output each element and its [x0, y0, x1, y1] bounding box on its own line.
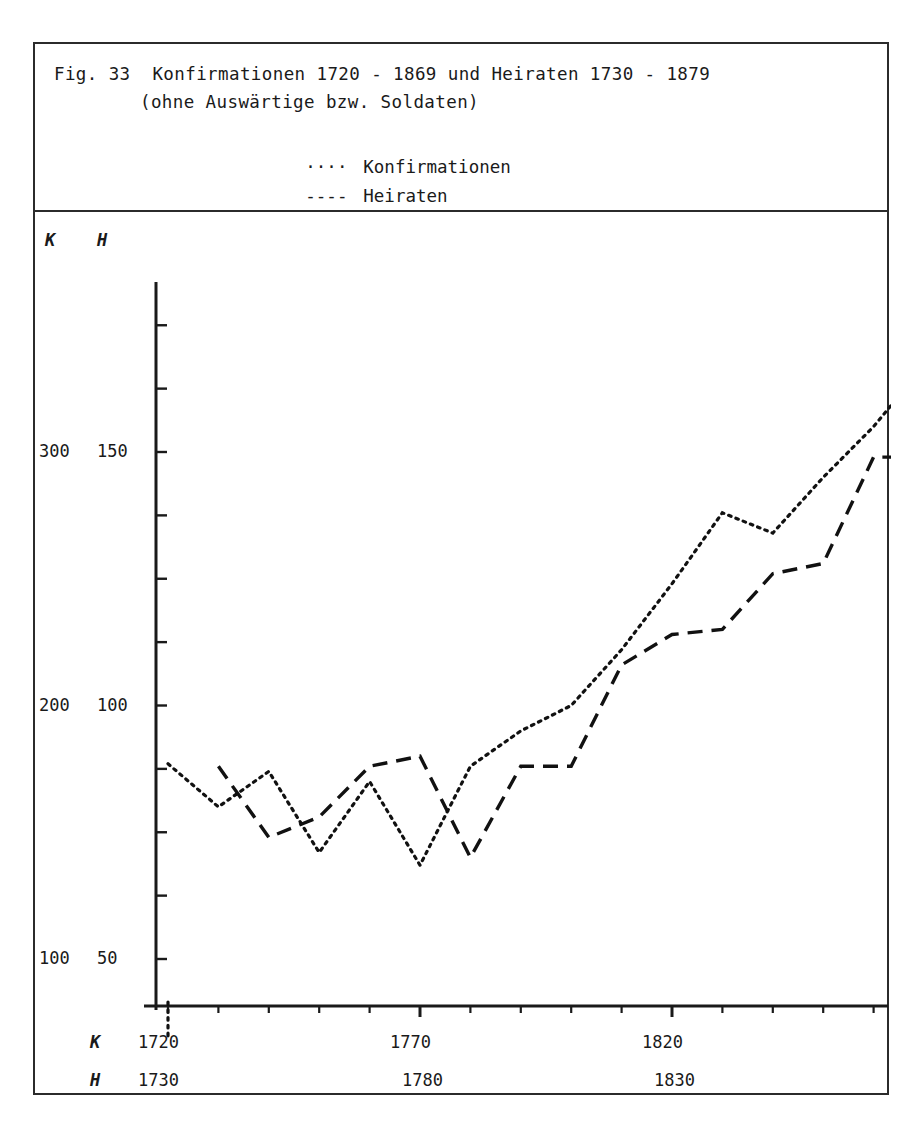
dashed-line-icon: ----: [305, 186, 357, 206]
x-tick-label-h: 1730: [138, 1070, 179, 1090]
x-axis-ticks: [168, 1006, 874, 1017]
y-tick-label-k: 200: [39, 695, 70, 715]
x-tick-label-k: 1770: [390, 1032, 431, 1052]
series-line-konfirmationen: [168, 366, 891, 865]
caption-block: Fig. 33 Konfirmationen 1720 - 1869 und H…: [35, 44, 887, 212]
y-tick-label-h: 150: [97, 441, 128, 461]
y-tick-label-k: 100: [39, 948, 70, 968]
x-tick-label-h: 1780: [402, 1070, 443, 1090]
y-axis-ticks: [156, 325, 167, 959]
series-layer: [168, 366, 891, 1040]
figure-caption-line-1: Fig. 33 Konfirmationen 1720 - 1869 und H…: [35, 64, 906, 84]
figure-frame: Fig. 33 Konfirmationen 1720 - 1869 und H…: [33, 42, 889, 1095]
y-tick-label-h: 50: [97, 948, 117, 968]
legend-item-konfirmationen: ····Konfirmationen: [221, 136, 511, 162]
y-tick-label-k: 300: [39, 441, 70, 461]
y-tick-label-h: 100: [97, 695, 128, 715]
legend-item-heiraten: ----Heiraten: [221, 165, 448, 191]
series-line-heiraten: [218, 457, 891, 857]
chart-canvas: [35, 212, 891, 1095]
x-tick-label-h: 1830: [654, 1070, 695, 1090]
axis-lines: [144, 282, 888, 1010]
x-tick-label-k: 1820: [642, 1032, 683, 1052]
plot-area: K H 30015020010010050 172017701820173017…: [35, 212, 887, 1095]
legend-label-heiraten: Heiraten: [357, 186, 447, 206]
figure-caption-line-2: (ohne Auswärtige bzw. Soldaten): [35, 92, 921, 112]
x-axis-row-key-k: K: [90, 1032, 100, 1052]
x-tick-label-k: 1720: [138, 1032, 179, 1052]
x-axis-row-key-h: H: [90, 1070, 100, 1090]
